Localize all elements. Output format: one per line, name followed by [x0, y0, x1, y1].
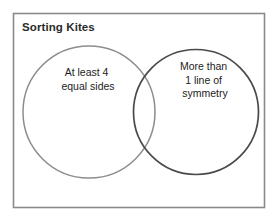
venn-diagram-canvas: Sorting Kites At least 4 equal sides Mor… [0, 0, 279, 221]
set-label-left: At least 4 equal sides [61, 66, 114, 92]
set-label-left-line-1: At least 4 [65, 66, 109, 78]
diagram-title: Sorting Kites [22, 21, 95, 33]
set-label-right-line-3: symmetry [182, 87, 228, 99]
set-label-left-line-2: equal sides [61, 80, 114, 92]
set-label-right-line-2: 1 line of [185, 74, 222, 86]
set-label-right-line-1: More than [180, 60, 227, 72]
diagram-frame [14, 14, 265, 208]
venn-diagram-container: Sorting Kites At least 4 equal sides Mor… [0, 0, 279, 221]
set-label-right: More than 1 line of symmetry [180, 60, 230, 99]
